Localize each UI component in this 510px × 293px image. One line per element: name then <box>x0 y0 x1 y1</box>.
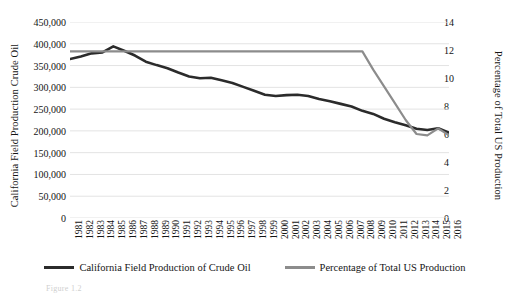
x-tick-label: 2003 <box>312 220 322 239</box>
chart-canvas <box>70 22 449 218</box>
x-tick-label: 2006 <box>345 220 355 239</box>
x-tick-label: 1987 <box>139 220 149 239</box>
x-tick-label: 2016 <box>453 220 463 239</box>
x-tick-label: 2004 <box>323 220 333 239</box>
left-tick-label: 250,000 <box>34 104 67 115</box>
right-axis-title: Percentage of Total US Production <box>493 26 504 226</box>
x-tick-label: 2012 <box>410 220 420 239</box>
x-tick-label: 1981 <box>74 220 84 239</box>
x-tick-label: 1983 <box>96 220 106 239</box>
legend-label: Percentage of Total US Production <box>320 262 466 273</box>
x-tick-label: 1984 <box>106 220 116 239</box>
legend-line-swatch <box>44 266 74 269</box>
chart-figure: California Field Production Crude Oil Pe… <box>0 0 510 293</box>
x-tick-label: 1993 <box>204 220 214 239</box>
x-tick-label: 1990 <box>171 220 181 239</box>
x-tick-label: 2009 <box>377 220 387 239</box>
x-tick-label: 2014 <box>431 220 441 239</box>
x-tick-label: 1994 <box>215 220 225 239</box>
figure-caption: Figure 1.2 <box>46 284 82 293</box>
x-tick-label: 1998 <box>258 220 268 239</box>
x-tick-label: 1989 <box>161 220 171 239</box>
x-tick-label: 2002 <box>301 220 311 239</box>
plot-area <box>70 22 449 218</box>
x-tick-label: 2013 <box>421 220 431 239</box>
x-tick-label: 1991 <box>182 220 192 239</box>
left-tick-label: 150,000 <box>34 147 67 158</box>
left-tick-label: 350,000 <box>34 60 67 71</box>
x-tick-label: 1982 <box>85 220 95 239</box>
x-tick-label: 1992 <box>193 220 203 239</box>
x-tick-label: 1986 <box>128 220 138 239</box>
x-tick-label: 2000 <box>280 220 290 239</box>
left-tick-label: 100,000 <box>34 169 67 180</box>
left-tick-label: 450,000 <box>34 17 67 28</box>
legend-label: California Field Production of Crude Oil <box>79 262 250 273</box>
x-tick-label: 1995 <box>226 220 236 239</box>
x-tick-label: 1985 <box>117 220 127 239</box>
x-tick-label: 2015 <box>442 220 452 239</box>
x-tick-label: 2008 <box>366 220 376 239</box>
x-tick-label: 1988 <box>150 220 160 239</box>
legend-line-swatch <box>285 266 315 269</box>
x-tick-label: 1996 <box>236 220 246 239</box>
left-tick-label: 400,000 <box>34 38 67 49</box>
x-tick-label: 2010 <box>388 220 398 239</box>
chart-legend: California Field Production of Crude Oil… <box>0 262 510 273</box>
left-tick-label: 300,000 <box>34 82 67 93</box>
left-tick-label: 50,000 <box>39 191 67 202</box>
left-axis-ticks: 050,000100,000150,000200,000250,000300,0… <box>8 0 66 293</box>
legend-item[interactable]: California Field Production of Crude Oil <box>44 262 250 273</box>
legend-item[interactable]: Percentage of Total US Production <box>285 262 466 273</box>
x-tick-label: 2007 <box>356 220 366 239</box>
left-tick-label: 0 <box>61 213 66 224</box>
series-line <box>70 46 449 132</box>
x-tick-label: 2011 <box>399 220 409 239</box>
x-axis-ticks: 1981198219831984198519861987198819891990… <box>70 220 449 266</box>
x-tick-label: 1999 <box>269 220 279 239</box>
x-tick-label: 1997 <box>247 220 257 239</box>
left-tick-label: 200,000 <box>34 125 67 136</box>
x-tick-label: 2005 <box>334 220 344 239</box>
x-tick-label: 2001 <box>291 220 301 239</box>
